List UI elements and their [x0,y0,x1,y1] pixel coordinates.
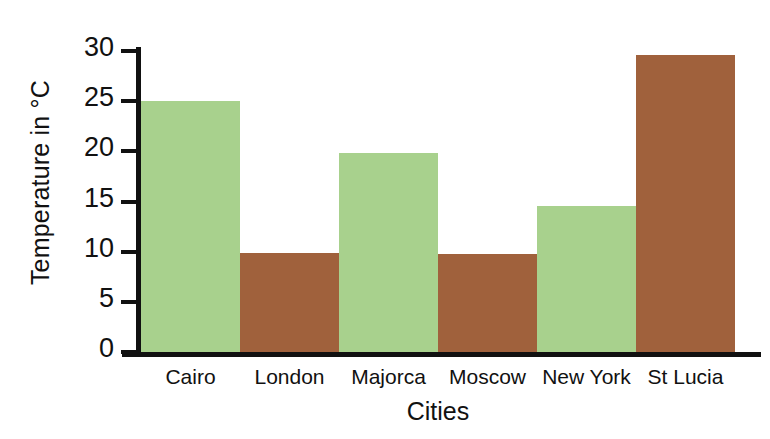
y-axis-tick-mark [121,49,136,53]
x-axis-label-st-lucia: St Lucia [636,364,735,390]
plot-area [141,51,735,352]
x-axis-label-majorca: Majorca [339,364,438,390]
y-axis-tick: 15 [60,200,136,204]
y-axis-tick-label: 5 [99,283,114,313]
x-axis-label-moscow: Moscow [438,364,537,390]
y-axis-tick-mark [121,350,136,354]
x-axis-label-new-york: New York [537,364,636,390]
x-axis-label-london: London [240,364,339,390]
x-axis-title: Cities [141,397,735,426]
y-axis-tick: 0 [60,350,136,354]
x-axis-line [122,352,761,357]
y-axis-tick-label: 30 [84,32,114,62]
y-axis-tick-label: 10 [84,233,114,263]
bar-majorca [339,153,438,352]
bar-london [240,253,339,352]
bar-chart-figure: Temperature in °C 051015202530 CairoLond… [0,0,770,439]
bar-new-york [537,206,636,352]
y-axis-tick: 20 [60,149,136,153]
y-axis-tick: 30 [60,49,136,53]
y-axis-tick-mark [121,250,136,254]
bar-st-lucia [636,55,735,352]
y-axis-tick-mark [121,300,136,304]
y-axis-tick: 5 [60,300,136,304]
y-axis-title: Temperature in °C [26,23,55,343]
y-axis-tick-label: 25 [84,82,114,112]
y-axis-tick-label: 0 [99,333,114,363]
y-axis-tick-label: 20 [84,132,114,162]
bar-moscow [438,254,537,352]
y-axis-tick: 25 [60,99,136,103]
y-axis-tick-mark [121,99,136,103]
bar-cairo [141,101,240,352]
y-axis-tick-label: 15 [84,183,114,213]
y-axis-tick: 10 [60,250,136,254]
y-axis-tick-mark [121,149,136,153]
x-axis-label-cairo: Cairo [141,364,240,390]
y-axis-tick-mark [121,200,136,204]
